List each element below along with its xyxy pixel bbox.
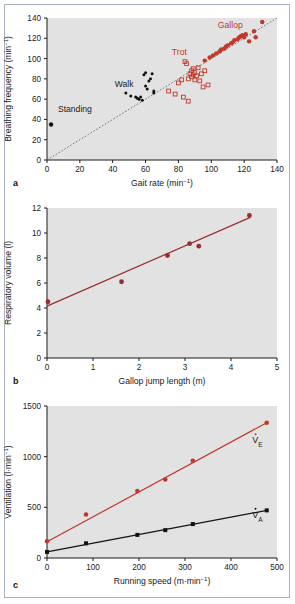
panel-a-annotation-standing: Standing xyxy=(58,104,92,114)
data-point xyxy=(252,29,256,33)
y-tick-label: 2 xyxy=(36,329,41,338)
data-point xyxy=(165,253,170,258)
panel-a-y-axis-title: Breathing frequency (min−1) xyxy=(3,36,13,142)
x-tick-label: 4 xyxy=(229,363,234,372)
y-tick-label: 140 xyxy=(27,14,41,23)
overdot-icon xyxy=(255,508,257,510)
x-tick-label: 100 xyxy=(86,563,100,572)
data-point xyxy=(84,541,88,545)
x-tick-label: 120 xyxy=(237,165,251,174)
data-point xyxy=(149,77,152,80)
x-tick-label: 0 xyxy=(45,165,50,174)
panel-a-chart: 020406080100120140020406080100120140Gait… xyxy=(0,6,295,196)
data-point xyxy=(135,489,140,494)
y-tick-label: 6 xyxy=(36,279,41,288)
y-tick-label: 4 xyxy=(36,304,41,313)
data-point xyxy=(152,92,155,95)
panel-a-letter: a xyxy=(13,178,18,188)
y-tick-label: 120 xyxy=(27,34,41,43)
data-point xyxy=(265,508,269,512)
plot-area-background xyxy=(47,406,277,558)
data-point xyxy=(135,533,139,537)
y-tick-label: 0 xyxy=(36,354,41,363)
data-point xyxy=(46,299,51,304)
y-tick-label: 1000 xyxy=(23,453,42,462)
y-tick-label: 60 xyxy=(32,95,42,104)
data-point xyxy=(187,241,192,246)
panel-b-chart: 012345024681012Gallop jump length (m)Res… xyxy=(0,196,295,394)
y-tick-label: 12 xyxy=(32,204,42,213)
data-point xyxy=(163,528,167,532)
data-point xyxy=(244,32,248,36)
x-tick-label: 80 xyxy=(174,165,184,174)
panel-b: 012345024681012Gallop jump length (m)Res… xyxy=(0,196,295,394)
panel-c-chart: 0100200300400500050010001500Running spee… xyxy=(0,394,295,600)
x-tick-label: 0 xyxy=(45,563,50,572)
x-tick-label: 400 xyxy=(224,563,238,572)
data-point xyxy=(124,92,127,95)
data-point xyxy=(144,84,147,87)
y-tick-label: 10 xyxy=(32,229,42,238)
x-tick-label: 100 xyxy=(204,165,218,174)
panel-a-annotation-walk: Walk xyxy=(115,79,134,89)
data-point xyxy=(191,522,195,526)
data-point xyxy=(144,71,147,74)
panel-a: 020406080100120140020406080100120140Gait… xyxy=(0,6,295,196)
data-point xyxy=(253,35,257,39)
data-point xyxy=(129,95,132,98)
x-tick-label: 0 xyxy=(45,363,50,372)
data-point xyxy=(45,550,49,554)
panel-a-x-axis-title: Gait rate (min−1) xyxy=(131,178,193,188)
panel-c-letter: c xyxy=(13,580,18,590)
data-point xyxy=(49,122,53,126)
x-tick-label: 500 xyxy=(270,563,284,572)
y-tick-label: 500 xyxy=(27,503,41,512)
x-tick-label: 20 xyxy=(75,165,85,174)
y-tick-label: 8 xyxy=(36,254,41,263)
x-tick-label: 200 xyxy=(132,563,146,572)
y-tick-label: 100 xyxy=(27,55,41,64)
data-point xyxy=(151,72,154,75)
y-tick-label: 0 xyxy=(36,156,41,165)
y-tick-label: 1500 xyxy=(23,402,42,411)
data-point xyxy=(45,539,50,544)
data-point xyxy=(84,512,89,517)
panel-b-y-axis-title: Respiratory volume (l) xyxy=(3,241,13,325)
data-point xyxy=(191,458,196,463)
panel-a-annotation-trot: Trot xyxy=(172,47,188,57)
plot-area-background xyxy=(47,208,277,358)
overdot-icon xyxy=(255,433,257,435)
x-tick-label: 1 xyxy=(91,363,96,372)
data-point xyxy=(247,213,252,218)
data-point xyxy=(119,279,124,284)
data-point xyxy=(247,39,251,43)
x-tick-label: 40 xyxy=(108,165,118,174)
panel-b-x-axis-title: Gallop jump length (m) xyxy=(119,376,206,386)
data-point xyxy=(139,96,142,99)
data-point xyxy=(163,477,168,482)
data-point xyxy=(264,420,269,425)
panel-c-y-axis-title: Ventilation (l·min−1) xyxy=(3,445,13,518)
data-point xyxy=(146,88,149,91)
y-tick-label: 80 xyxy=(32,75,42,84)
panel-c-x-axis-title: Running speed (m·min−1) xyxy=(114,576,211,586)
figure-root: 020406080100120140020406080100120140Gait… xyxy=(0,0,295,604)
y-tick-label: 0 xyxy=(36,554,41,563)
x-tick-label: 2 xyxy=(137,363,142,372)
x-tick-label: 5 xyxy=(275,363,280,372)
data-point xyxy=(260,20,264,24)
data-point xyxy=(141,99,144,102)
panel-b-letter: b xyxy=(13,376,19,386)
x-tick-label: 300 xyxy=(178,563,192,572)
x-tick-label: 60 xyxy=(141,165,151,174)
y-tick-label: 20 xyxy=(32,136,42,145)
x-tick-label: 3 xyxy=(183,363,188,372)
x-tick-label: 140 xyxy=(270,165,284,174)
y-tick-label: 40 xyxy=(32,115,42,124)
panel-a-annotation-gallop: Gallop xyxy=(218,20,243,30)
panel-c: 0100200300400500050010001500Running spee… xyxy=(0,394,295,600)
data-point xyxy=(196,244,201,249)
data-point xyxy=(203,58,207,62)
